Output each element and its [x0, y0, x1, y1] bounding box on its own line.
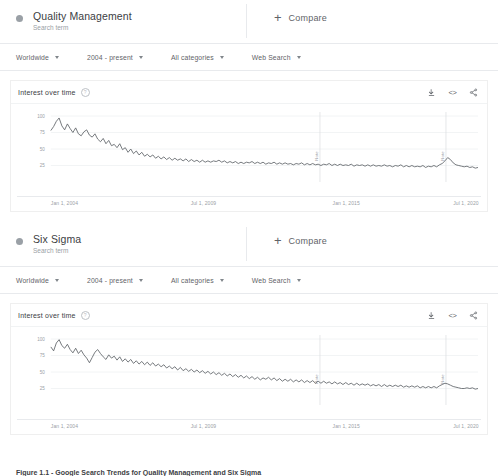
y-axis-tick-label: 50 [40, 147, 46, 152]
chevron-down-icon [297, 279, 301, 282]
note-annotation-label: Note [440, 151, 445, 161]
filter-category-label: All categories [171, 277, 214, 284]
filter-location[interactable]: Worldwide [16, 54, 59, 61]
x-axis-tick-label: Jan 1, 2004 [51, 423, 78, 429]
interest-over-time-card: Interest over time ? <> 100755025NoteNot… [10, 303, 488, 435]
term-subtitle: Search term [33, 23, 132, 33]
series-line [51, 118, 478, 168]
card-title: Interest over time [18, 312, 76, 319]
x-axis-tick-label: Jan 1, 2015 [333, 423, 360, 429]
filter-timerange-label: 2004 - present [87, 54, 133, 61]
trends-line-chart[interactable]: 100755025NoteNote [17, 110, 481, 196]
chevron-down-icon [220, 56, 224, 59]
chevron-down-icon [297, 56, 301, 59]
series-line [51, 340, 478, 390]
plus-icon: + [274, 236, 282, 246]
download-icon[interactable] [426, 87, 437, 98]
chart-plot-area: 100755025NoteNote [11, 327, 487, 419]
compare-button[interactable]: + Compare [274, 236, 327, 246]
filter-category[interactable]: All categories [171, 277, 224, 284]
y-axis-tick-label: 25 [40, 386, 46, 391]
header-divider [246, 227, 247, 261]
chevron-down-icon [55, 56, 59, 59]
compare-button[interactable]: + Compare [274, 13, 327, 23]
card-header: Interest over time ? <> [11, 81, 487, 104]
filter-location-label: Worldwide [16, 277, 49, 284]
compare-label: Compare [289, 13, 327, 23]
card-header: Interest over time ? <> [11, 304, 487, 327]
note-annotation-label: Note [314, 151, 319, 161]
series-color-dot-icon [16, 238, 23, 245]
embed-icon[interactable]: <> [447, 310, 458, 321]
header-divider [246, 4, 247, 38]
x-axis-tick-label: Jan 1, 2004 [51, 200, 78, 206]
filter-timerange[interactable]: 2004 - present [87, 277, 143, 284]
plus-icon: + [274, 13, 282, 23]
trends-panel-six-sigma: Six Sigma Search term + Compare Worldwid… [0, 223, 498, 435]
embed-icon[interactable]: <> [447, 87, 458, 98]
x-axis-tick-label: Jul 1, 2020 [453, 423, 479, 429]
filter-location[interactable]: Worldwide [16, 277, 59, 284]
filter-search-type-label: Web Search [252, 277, 291, 284]
download-icon[interactable] [426, 310, 437, 321]
filter-location-label: Worldwide [16, 54, 49, 61]
filter-category-label: All categories [171, 54, 214, 61]
term-title: Quality Management [33, 10, 132, 22]
chevron-down-icon [55, 279, 59, 282]
card-title: Interest over time [18, 89, 76, 96]
y-axis-tick-label: 25 [40, 163, 46, 168]
x-axis: Jan 1, 2004Jul 1, 2009Jan 1, 2015Jul 1, … [17, 419, 481, 434]
filter-search-type-label: Web Search [252, 54, 291, 61]
x-axis-tick-label: Jul 1, 2009 [191, 200, 217, 206]
x-axis-tick-label: Jul 1, 2009 [191, 423, 217, 429]
share-icon[interactable] [468, 87, 479, 98]
figure-caption: Figure 1.1 - Google Search Trends for Qu… [16, 469, 261, 476]
y-axis-tick-label: 100 [37, 114, 45, 119]
filter-bar: Worldwide 2004 - present All categories … [0, 266, 498, 294]
interest-over-time-card: Interest over time ? <> 100755025NoteNot… [10, 80, 488, 212]
term-info[interactable]: Six Sigma Search term [16, 233, 256, 256]
share-icon[interactable] [468, 310, 479, 321]
filter-timerange[interactable]: 2004 - present [87, 54, 143, 61]
filter-search-type[interactable]: Web Search [252, 277, 301, 284]
term-header: Quality Management Search term + Compare [0, 0, 498, 41]
card-actions: <> [426, 87, 479, 98]
term-title: Six Sigma [33, 233, 81, 245]
filter-timerange-label: 2004 - present [87, 277, 133, 284]
card-actions: <> [426, 310, 479, 321]
y-axis-tick-label: 75 [40, 353, 46, 358]
y-axis-tick-label: 50 [40, 370, 46, 375]
trends-panel-quality-management: Quality Management Search term + Compare… [0, 0, 498, 212]
y-axis-tick-label: 100 [37, 337, 45, 342]
trends-line-chart[interactable]: 100755025NoteNote [17, 333, 481, 419]
compare-label: Compare [289, 236, 327, 246]
x-axis-tick-label: Jul 1, 2020 [453, 200, 479, 206]
x-axis-tick-label: Jan 1, 2015 [333, 200, 360, 206]
term-subtitle: Search term [33, 246, 81, 256]
x-axis: Jan 1, 2004Jul 1, 2009Jan 1, 2015Jul 1, … [17, 196, 481, 211]
term-info[interactable]: Quality Management Search term [16, 10, 256, 33]
help-icon[interactable]: ? [81, 311, 90, 320]
filter-bar: Worldwide 2004 - present All categories … [0, 43, 498, 71]
chart-plot-area: 100755025NoteNote [11, 104, 487, 196]
y-axis-tick-label: 75 [40, 130, 46, 135]
chevron-down-icon [220, 279, 224, 282]
note-annotation-label: Note [440, 374, 445, 384]
chevron-down-icon [139, 56, 143, 59]
filter-search-type[interactable]: Web Search [252, 54, 301, 61]
chevron-down-icon [139, 279, 143, 282]
help-icon[interactable]: ? [81, 88, 90, 97]
series-color-dot-icon [16, 15, 23, 22]
term-header: Six Sigma Search term + Compare [0, 223, 498, 264]
filter-category[interactable]: All categories [171, 54, 224, 61]
